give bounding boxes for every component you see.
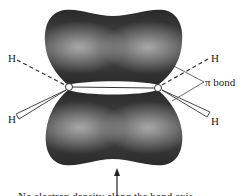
sigma-bond-line [72, 87, 154, 88]
bottom-p-orbital-lobe [46, 90, 183, 165]
label-h-bottom-left: H [8, 113, 16, 125]
top-p-orbital-lobe [45, 10, 182, 85]
arrow-up-icon [114, 168, 120, 176]
carbon-atom-right [155, 85, 162, 92]
caption-truncated: No electron density along the bond axis [18, 190, 193, 196]
pi-bond-diagram: H H H H π bond No electron density along… [0, 0, 247, 196]
label-pi-bond: π bond [205, 76, 236, 88]
carbon-atom-left [66, 84, 73, 91]
label-h-top-right: H [211, 52, 219, 64]
label-h-top-left: H [8, 52, 16, 64]
label-h-bottom-right: H [211, 115, 219, 127]
